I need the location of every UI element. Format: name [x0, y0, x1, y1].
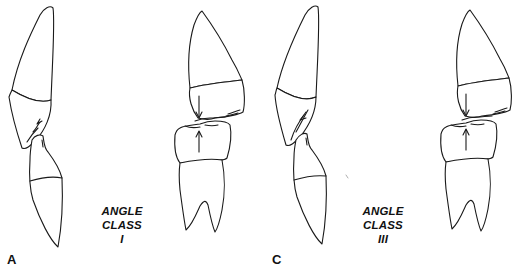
label-line: ANGLE — [353, 204, 413, 218]
panel-c-lower-molar — [441, 116, 497, 231]
panel-a-letter: A — [7, 252, 16, 267]
teeth-drawing — [0, 0, 514, 271]
panel-a-upper-molar — [189, 11, 245, 120]
stray-mark — [346, 175, 348, 178]
label-line: III — [353, 232, 413, 246]
panel-a-lower-incisor — [30, 135, 63, 247]
panel-c-class-label: ANGLE CLASS III — [353, 204, 413, 246]
panel-a-lower-molar — [175, 117, 231, 232]
label-line: ANGLE — [92, 204, 152, 218]
label-line: CLASS — [92, 218, 152, 232]
panel-c-upper-incisor — [275, 6, 319, 146]
panel-a-class-label: ANGLE CLASS I — [92, 204, 152, 246]
panel-c-letter: C — [272, 252, 281, 267]
label-line: CLASS — [353, 218, 413, 232]
dental-occlusion-figure: ANGLE CLASS I A ANGLE CLASS III C — [0, 0, 514, 271]
label-line: I — [92, 232, 152, 246]
panel-a-upper-incisor — [9, 7, 54, 149]
panel-c-upper-molar — [457, 10, 512, 118]
panel-c-lower-incisor — [294, 133, 327, 244]
